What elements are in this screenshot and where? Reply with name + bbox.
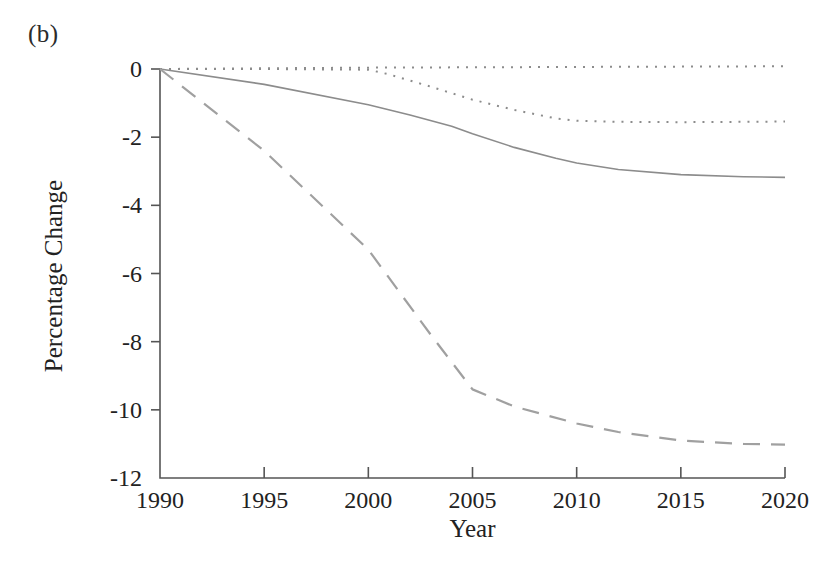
axes [151, 69, 785, 478]
x-tick-label: 2010 [553, 487, 601, 513]
x-tick-label: 2020 [761, 487, 809, 513]
series-middle-solid [160, 69, 785, 177]
series-flat-baseline-dotted [160, 66, 785, 69]
y-tick-label: -8 [122, 329, 142, 355]
series-lines [160, 66, 785, 444]
y-tick-label: -2 [122, 124, 142, 150]
y-tick-label: -10 [110, 397, 142, 423]
x-tick-label: 1995 [240, 487, 288, 513]
x-tick-label: 2005 [449, 487, 497, 513]
x-tick-label: 2000 [344, 487, 392, 513]
y-tick-label: -4 [122, 192, 142, 218]
line-chart-plot: 0-2-4-6-8-10-121990199520002005201020152… [0, 0, 830, 569]
series-upper-dotted [160, 69, 785, 122]
x-tick-label: 1990 [136, 487, 184, 513]
tick-labels: 0-2-4-6-8-10-121990199520002005201020152… [110, 56, 809, 513]
x-tick-label: 2015 [657, 487, 705, 513]
y-tick-label: -6 [122, 261, 142, 287]
figure-panel-b: (b) Percentage Change Year 0-2-4-6-8-10-… [0, 0, 830, 569]
series-lower-dashed [160, 69, 785, 445]
y-tick-label: 0 [130, 56, 142, 82]
